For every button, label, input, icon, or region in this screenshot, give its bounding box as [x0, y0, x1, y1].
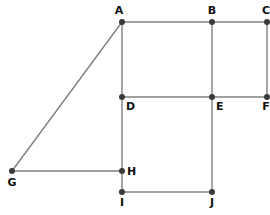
node-label-i: I [120, 196, 124, 209]
node-j [209, 189, 215, 195]
labels-group: ABCDEFGHIJ [7, 4, 270, 209]
graph-diagram: ABCDEFGHIJ [0, 0, 270, 215]
node-label-b: B [208, 4, 216, 17]
edges-group [12, 22, 267, 192]
node-label-j: J [209, 196, 214, 209]
node-c [264, 19, 270, 25]
node-label-g: G [7, 176, 16, 189]
node-b [209, 19, 215, 25]
node-label-a: A [115, 4, 124, 17]
nodes-group [9, 19, 270, 195]
node-a [119, 19, 125, 25]
node-e [209, 94, 215, 100]
node-label-h: H [127, 165, 136, 178]
edge-a-g [12, 22, 122, 171]
node-g [9, 168, 15, 174]
node-d [119, 94, 125, 100]
node-i [119, 189, 125, 195]
node-label-f: F [262, 100, 270, 113]
node-label-e: E [216, 100, 224, 113]
node-h [119, 168, 125, 174]
node-label-c: C [262, 4, 270, 17]
node-label-d: D [126, 100, 135, 113]
